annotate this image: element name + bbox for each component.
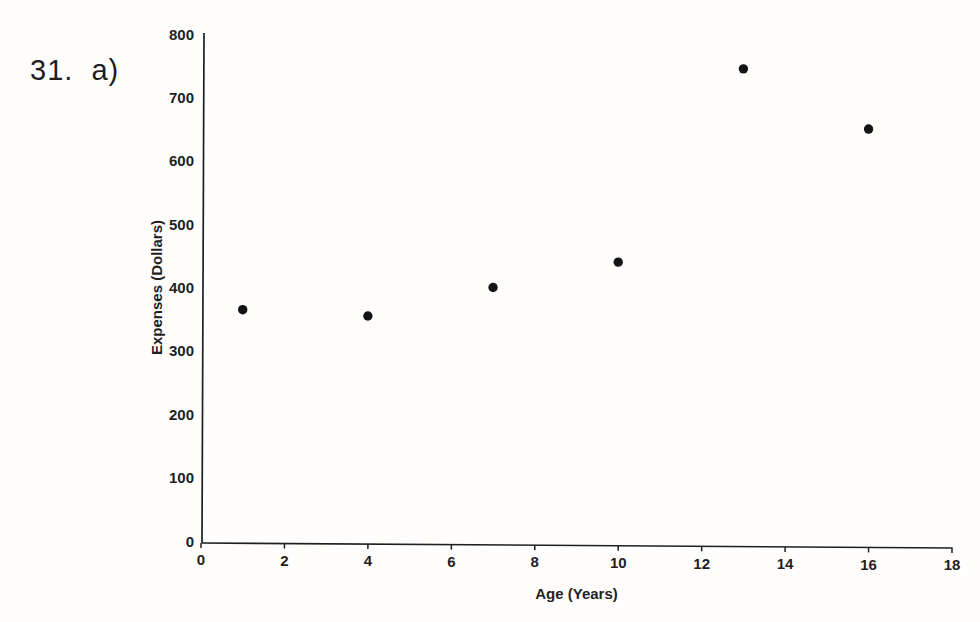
y-tick-label: 500 bbox=[169, 216, 194, 233]
x-axis-title: Age (Years) bbox=[535, 585, 618, 602]
x-tick-label: 4 bbox=[364, 552, 373, 569]
x-tick-label: 8 bbox=[531, 553, 539, 570]
data-point bbox=[238, 305, 247, 314]
x-tick-label: 14 bbox=[777, 555, 794, 572]
y-tick-label: 0 bbox=[186, 533, 194, 550]
expenses-vs-age-scatter-chart: 0246810121416180100200300400500600700800… bbox=[0, 0, 980, 622]
data-point bbox=[614, 257, 623, 266]
x-tick-label: 2 bbox=[280, 552, 288, 569]
x-axis-line bbox=[202, 543, 953, 548]
y-tick-label: 600 bbox=[169, 152, 194, 169]
worksheet-page: 31. a) 024681012141618010020030040050060… bbox=[0, 0, 980, 622]
data-point bbox=[864, 124, 873, 133]
y-tick-label: 800 bbox=[169, 26, 194, 43]
x-tick-label: 10 bbox=[610, 554, 627, 571]
x-tick-label: 16 bbox=[860, 556, 877, 573]
y-tick-label: 400 bbox=[169, 279, 194, 296]
y-tick-label: 700 bbox=[169, 89, 194, 106]
x-tick-label: 18 bbox=[944, 556, 961, 573]
data-point bbox=[488, 283, 497, 292]
y-tick-label: 100 bbox=[169, 469, 194, 486]
x-tick-label: 12 bbox=[693, 555, 710, 572]
data-point bbox=[739, 64, 748, 73]
y-axis-line bbox=[202, 33, 204, 543]
y-axis-title: Expenses (Dollars) bbox=[148, 220, 165, 355]
data-point bbox=[363, 311, 372, 320]
y-tick-label: 200 bbox=[169, 406, 194, 423]
x-tick-label: 6 bbox=[447, 553, 455, 570]
x-tick-label: 0 bbox=[197, 551, 205, 568]
y-tick-label: 300 bbox=[169, 342, 194, 359]
